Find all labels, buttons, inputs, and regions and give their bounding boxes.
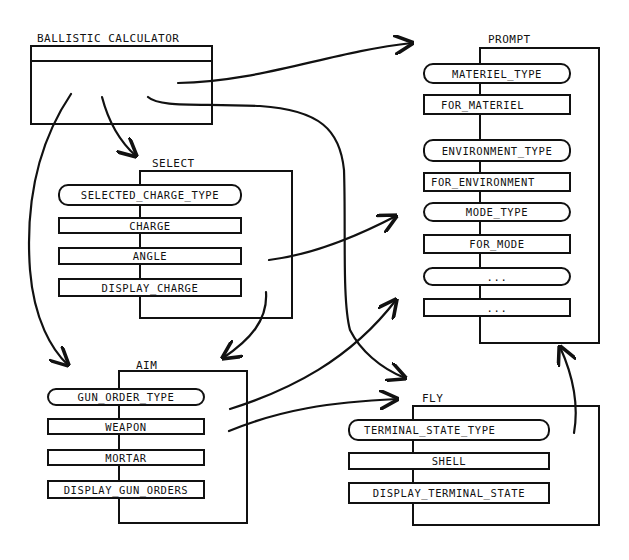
prompt-item-for-environment: FOR_ENVIRONMENT bbox=[423, 172, 571, 192]
aim-item-display-gun-orders: DISPLAY_GUN_ORDERS bbox=[47, 480, 205, 499]
prompt-title: PROMPT bbox=[488, 34, 531, 46]
select-item-charge: CHARGE bbox=[58, 217, 242, 234]
prompt-item-environment-type: ENVIRONMENT_TYPE bbox=[423, 139, 571, 162]
fly-item-display-terminal-state: DISPLAY_TERMINAL_STATE bbox=[348, 482, 550, 504]
aim-item-gun-order-type: GUN_ORDER_TYPE bbox=[47, 388, 205, 406]
arrow-calculator-to-prompt bbox=[178, 43, 412, 83]
prompt-item-materiel-type: MATERIEL_TYPE bbox=[423, 63, 571, 84]
ballistic-calculator-box bbox=[30, 45, 213, 125]
select-item-angle: ANGLE bbox=[58, 247, 242, 265]
prompt-item-for-mode: FOR_MODE bbox=[423, 234, 571, 254]
prompt-item-for-materiel: FOR_MATERIEL bbox=[423, 94, 571, 115]
prompt-item-mode-type: MODE_TYPE bbox=[423, 202, 571, 222]
aim-item-mortar: MORTAR bbox=[47, 449, 205, 466]
select-title: SELECT bbox=[152, 158, 195, 170]
fly-item-shell: SHELL bbox=[348, 452, 550, 470]
prompt-item-ellipsis-type: ... bbox=[423, 267, 571, 286]
ballistic-calculator-title: BALLISTIC CALCULATOR bbox=[37, 33, 179, 45]
prompt-item-ellipsis-subprogram: ... bbox=[423, 298, 571, 317]
select-item-display-charge: DISPLAY_CHARGE bbox=[58, 278, 242, 297]
fly-item-terminal-state-type: TERMINAL_STATE_TYPE bbox=[348, 419, 550, 441]
select-item-selected-charge-type: SELECTED_CHARGE_TYPE bbox=[58, 184, 242, 206]
fly-title: FLY bbox=[422, 393, 443, 405]
aim-item-weapon: WEAPON bbox=[47, 418, 205, 435]
ballistic-calculator-divider bbox=[30, 60, 213, 62]
